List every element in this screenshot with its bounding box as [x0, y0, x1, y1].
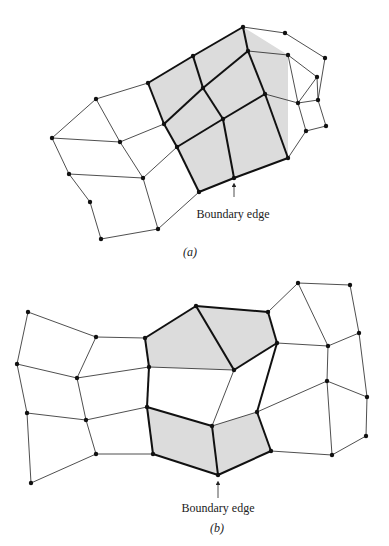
shaded-element: [145, 306, 277, 370]
mesh-edge: [317, 77, 318, 100]
boundary-edge-label: Boundary edge: [197, 207, 270, 221]
mesh-edge: [350, 285, 359, 333]
mesh-edge: [120, 124, 164, 142]
mesh-edge: [298, 283, 350, 285]
mesh-edge: [86, 407, 147, 420]
mesh-node: [162, 122, 166, 126]
mesh-edge: [318, 58, 325, 100]
mesh-edge: [96, 337, 145, 338]
mesh-edge: [366, 397, 367, 436]
mesh-edge: [27, 413, 31, 483]
mesh-edge: [101, 229, 158, 239]
mesh-node: [323, 56, 327, 60]
mesh-node: [67, 172, 71, 176]
mesh-edge: [52, 138, 120, 142]
mesh-edge: [17, 364, 77, 378]
mesh-edge: [212, 370, 234, 426]
mesh-edge: [268, 283, 298, 312]
mesh-node: [315, 75, 319, 79]
mesh-edge: [318, 100, 326, 126]
mesh-node: [232, 176, 236, 180]
mesh-edge: [52, 99, 96, 138]
mesh-node: [316, 98, 320, 102]
mesh-edge: [277, 343, 328, 346]
mesh-node: [326, 344, 330, 348]
mesh-edge: [31, 454, 96, 483]
mesh-node: [210, 424, 214, 428]
mesh-node: [191, 54, 195, 58]
mesh-node: [26, 310, 30, 314]
mesh-node: [156, 227, 160, 231]
mesh-edge: [86, 420, 96, 454]
mesh-node: [50, 136, 54, 140]
mesh-edge: [69, 174, 90, 202]
mesh-edge: [359, 333, 367, 397]
mesh-node: [275, 341, 279, 345]
mesh-node: [269, 449, 273, 453]
mesh-node: [146, 81, 150, 85]
mesh-node: [283, 31, 287, 35]
mesh-node: [365, 395, 369, 399]
mesh-node: [201, 86, 205, 90]
mesh-node: [324, 124, 328, 128]
mesh-edge: [298, 103, 306, 131]
mesh-edge: [143, 147, 177, 178]
mesh-node: [348, 283, 352, 287]
mesh-edge: [17, 364, 27, 413]
mesh-node: [241, 25, 245, 29]
mesh-node: [255, 410, 259, 414]
mesh-node: [216, 473, 220, 477]
mesh-edge: [257, 381, 327, 412]
mesh-edge: [77, 367, 149, 378]
mesh-node: [364, 434, 368, 438]
mesh-edge: [328, 333, 359, 346]
mesh-node: [304, 129, 308, 133]
figure-caption: (b): [210, 521, 224, 535]
mesh-node: [141, 176, 145, 180]
mesh-edge: [52, 138, 69, 174]
mesh-node: [286, 156, 290, 160]
mesh-edge: [285, 33, 325, 58]
mesh-node: [94, 335, 98, 339]
mesh-node: [221, 117, 225, 121]
mesh-node: [25, 411, 29, 415]
mesh-edge: [327, 381, 367, 397]
mesh-edge: [288, 55, 317, 77]
mesh-node: [29, 481, 33, 485]
mesh-node: [88, 200, 92, 204]
mesh-edge: [69, 174, 143, 178]
mesh-node: [147, 365, 151, 369]
mesh-node: [197, 190, 201, 194]
boundary-edge: [147, 367, 149, 407]
mesh-node: [246, 49, 250, 53]
mesh-node: [15, 362, 19, 366]
mesh-edge: [90, 202, 101, 239]
mesh-edge: [306, 126, 326, 131]
mesh-edge: [298, 77, 317, 103]
mesh-node: [99, 237, 103, 241]
mesh-edge: [288, 131, 306, 158]
mesh-node: [325, 379, 329, 383]
mesh-edge: [298, 100, 318, 103]
mesh-node: [151, 452, 155, 456]
mesh-node: [263, 92, 267, 96]
boundary-edge-label: Boundary edge: [182, 501, 255, 515]
mesh-node: [118, 140, 122, 144]
mesh-edge: [120, 142, 143, 178]
mesh-edge: [158, 192, 199, 229]
mesh-edge: [77, 378, 86, 420]
mesh-node: [330, 453, 334, 457]
mesh-node: [75, 376, 79, 380]
mesh-edge: [96, 83, 148, 99]
mesh-edge: [27, 413, 86, 420]
mesh-edge: [327, 346, 328, 381]
mesh-edge: [28, 312, 96, 337]
mesh-node: [286, 53, 290, 57]
mesh-edge: [17, 312, 28, 364]
figure-a: Boundary edge(a): [50, 25, 328, 259]
mesh-node: [94, 97, 98, 101]
mesh-node: [296, 101, 300, 105]
mesh-node: [145, 405, 149, 409]
mesh-node: [296, 281, 300, 285]
mesh-node: [194, 304, 198, 308]
